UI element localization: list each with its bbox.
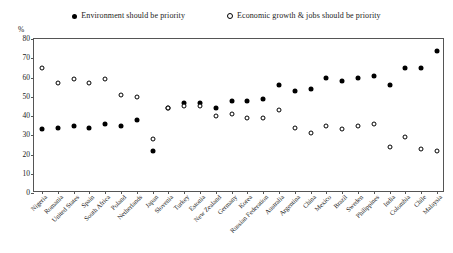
hollow-circle-icon xyxy=(227,13,233,19)
y-axis-tick-label: 80 xyxy=(16,35,30,43)
y-axis-tick-label: 20 xyxy=(16,150,30,158)
y-axis-tick-label: 50 xyxy=(16,92,30,100)
y-axis-unit-label: % xyxy=(18,26,24,34)
x-axis-labels: NigeriaRomaniaUnited StatesSpainSouth Af… xyxy=(33,194,444,253)
data-point xyxy=(103,121,108,126)
data-point xyxy=(340,127,345,132)
legend-item-economic: Economic growth & jobs should be priorit… xyxy=(227,12,381,20)
data-point xyxy=(387,83,392,88)
y-axis-tick xyxy=(31,39,34,40)
data-point xyxy=(419,146,424,151)
y-axis-tick xyxy=(31,78,34,79)
data-point xyxy=(435,148,440,153)
data-point xyxy=(435,48,440,53)
data-point xyxy=(197,104,202,109)
data-point xyxy=(371,73,376,78)
data-point xyxy=(71,77,76,82)
data-point xyxy=(213,114,218,119)
y-axis-tick-label: 70 xyxy=(16,54,30,62)
data-point xyxy=(356,123,361,128)
data-point xyxy=(166,106,171,111)
data-point xyxy=(371,121,376,126)
data-point xyxy=(118,92,123,97)
plot-area xyxy=(34,39,443,191)
data-point xyxy=(134,117,139,122)
data-point xyxy=(87,81,92,86)
data-point xyxy=(308,131,313,136)
data-point xyxy=(261,115,266,120)
data-point xyxy=(150,148,155,153)
y-axis-tick-label: 60 xyxy=(16,73,30,81)
filled-circle-icon xyxy=(72,14,77,19)
data-point xyxy=(55,81,60,86)
legend-label-economic: Economic growth & jobs should be priorit… xyxy=(237,12,381,20)
data-point xyxy=(340,79,345,84)
data-point xyxy=(277,108,282,113)
data-point xyxy=(103,77,108,82)
data-point xyxy=(182,104,187,109)
data-point xyxy=(39,65,44,70)
y-axis-tick xyxy=(31,116,34,117)
data-point xyxy=(324,123,329,128)
data-point xyxy=(245,115,250,120)
data-point xyxy=(308,87,313,92)
data-point xyxy=(150,137,155,142)
data-point xyxy=(39,127,44,132)
data-point xyxy=(87,125,92,130)
data-point xyxy=(55,125,60,130)
y-axis-tick xyxy=(31,155,34,156)
data-point xyxy=(292,88,297,93)
data-point xyxy=(118,123,123,128)
y-axis-tick xyxy=(31,135,34,136)
data-point xyxy=(292,125,297,130)
y-axis-tick xyxy=(31,97,34,98)
scatter-chart: Environment should be priority Economic … xyxy=(0,0,453,253)
data-point xyxy=(134,94,139,99)
plot-frame xyxy=(33,38,444,192)
data-point xyxy=(261,96,266,101)
data-point xyxy=(387,144,392,149)
data-point xyxy=(245,98,250,103)
data-point xyxy=(324,75,329,80)
chart-legend: Environment should be priority Economic … xyxy=(0,9,453,23)
y-axis-tick-label: 40 xyxy=(16,112,30,120)
data-point xyxy=(71,123,76,128)
data-point xyxy=(229,98,234,103)
data-point xyxy=(403,135,408,140)
y-axis-tick-label: 30 xyxy=(16,131,30,139)
data-point xyxy=(356,75,361,80)
data-point xyxy=(229,112,234,117)
data-point xyxy=(213,106,218,111)
data-point xyxy=(277,83,282,88)
y-axis-tick xyxy=(31,174,34,175)
y-axis-tick-label: 10 xyxy=(16,169,30,177)
data-point xyxy=(403,65,408,70)
y-axis-tick-label: 0 xyxy=(16,189,30,197)
legend-label-environment: Environment should be priority xyxy=(81,12,185,20)
x-axis-tick-label: Turkey xyxy=(173,194,191,212)
y-axis-tick xyxy=(31,58,34,59)
data-point xyxy=(419,65,424,70)
legend-item-environment: Environment should be priority xyxy=(72,12,185,20)
